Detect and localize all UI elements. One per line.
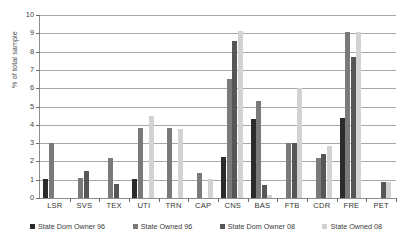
bar — [297, 88, 302, 198]
bar — [292, 143, 297, 198]
bar-group-bars — [307, 15, 337, 198]
bar — [108, 158, 113, 198]
bar — [340, 118, 345, 198]
y-axis-tick-label: 3 — [18, 139, 34, 146]
bar-group: CDR — [307, 15, 337, 198]
chart-legend: State Dom Owner 96State Owned 96State Do… — [30, 222, 382, 231]
bar — [321, 154, 326, 198]
bar-group: TRN — [159, 15, 189, 198]
bar-group-bars — [248, 15, 278, 198]
y-axis-tick-label: 1 — [18, 176, 34, 183]
x-axis-tick-label: UTI — [129, 201, 159, 210]
bar-group: TEX — [99, 15, 129, 198]
bar-group-bars — [40, 15, 70, 198]
bar — [149, 116, 154, 198]
bar — [197, 173, 202, 198]
bar — [386, 182, 391, 198]
bar-group-bars — [129, 15, 159, 198]
bar — [251, 119, 256, 198]
x-axis-tick-label: CAP — [188, 201, 218, 210]
bar-group-bars — [99, 15, 129, 198]
x-axis-tick-label: BAS — [248, 201, 278, 210]
x-axis-tick-label: CDR — [307, 201, 337, 210]
legend-item: State Owned 08 — [322, 222, 382, 231]
bar — [316, 158, 321, 198]
y-axis-tick-label: 0 — [18, 194, 34, 201]
x-axis-tick-label: FTB — [277, 201, 307, 210]
bar — [221, 157, 226, 198]
x-axis-tick-label: LSR — [40, 201, 70, 210]
legend-swatch — [30, 224, 35, 229]
bar-group: CNS — [218, 15, 248, 198]
bar — [227, 79, 232, 198]
bar-group-bars — [218, 15, 248, 198]
bar — [49, 143, 54, 198]
bar — [178, 129, 183, 198]
y-axis-tick — [36, 198, 40, 199]
bar-group-bars — [188, 15, 218, 198]
bar — [232, 41, 237, 198]
bar-group-bars — [366, 15, 396, 198]
bar — [262, 185, 267, 198]
y-axis-tick-label: 2 — [18, 157, 34, 164]
y-axis-tick-label: 4 — [18, 121, 34, 128]
bar-group-bars — [337, 15, 367, 198]
bar — [267, 195, 272, 198]
bar-chart: % of total sample 012345678910 LSRSVSTEX… — [0, 0, 403, 241]
y-axis-tick-label: 8 — [18, 48, 34, 55]
bar — [138, 128, 143, 198]
x-axis-tick — [396, 198, 397, 202]
bar — [286, 143, 291, 198]
x-axis-tick-label: PET — [366, 201, 396, 210]
y-axis-tick-label: 7 — [18, 66, 34, 73]
bar — [238, 31, 243, 198]
legend-item: State Owned 96 — [133, 222, 193, 231]
y-axis-title: % of total sample — [10, 0, 19, 130]
bar-group: LSR — [40, 15, 70, 198]
bar — [256, 101, 261, 198]
bar-group-bars — [277, 15, 307, 198]
bar — [43, 179, 48, 198]
bar-group: BAS — [248, 15, 278, 198]
legend-swatch — [133, 224, 138, 229]
bar-group-bars — [70, 15, 100, 198]
bar — [345, 32, 350, 198]
bar — [327, 146, 332, 198]
legend-swatch — [322, 224, 327, 229]
bar — [114, 184, 119, 198]
bar-group: PET — [366, 15, 396, 198]
bar — [78, 178, 83, 198]
legend-label: State Owned 96 — [141, 222, 193, 231]
y-axis-tick-label: 10 — [18, 11, 34, 18]
x-axis-tick-label: CNS — [218, 201, 248, 210]
legend-label: State Owned 08 — [330, 222, 382, 231]
y-axis-tick-label: 6 — [18, 84, 34, 91]
y-axis-tick-label: 9 — [18, 29, 34, 36]
x-axis-tick-label: SVS — [70, 201, 100, 210]
legend-swatch — [220, 224, 225, 229]
bar — [167, 128, 172, 198]
plot-area: 012345678910 LSRSVSTEXUTITRNCAPCNSBASFTB… — [39, 15, 396, 199]
x-axis-tick-label: FRE — [337, 201, 367, 210]
x-axis-tick-label: TEX — [99, 201, 129, 210]
bar-group: CAP — [188, 15, 218, 198]
bar-group-bars — [159, 15, 189, 198]
bar-group: SVS — [70, 15, 100, 198]
bar — [208, 179, 213, 198]
bar-group: FTB — [277, 15, 307, 198]
x-axis-tick-label: TRN — [159, 201, 189, 210]
y-axis-tick-label: 5 — [18, 103, 34, 110]
legend-label: State Dom Owner 96 — [38, 222, 105, 231]
legend-label: State Dom Owner 08 — [228, 222, 295, 231]
legend-item: State Dom Owner 08 — [220, 222, 295, 231]
bar — [132, 179, 137, 198]
legend-item: State Dom Owner 96 — [30, 222, 105, 231]
bar — [351, 57, 356, 198]
bar-group: UTI — [129, 15, 159, 198]
bar-group: FRE — [337, 15, 367, 198]
bar — [381, 182, 386, 198]
bar — [84, 171, 89, 198]
bar — [356, 32, 361, 198]
